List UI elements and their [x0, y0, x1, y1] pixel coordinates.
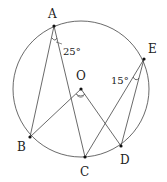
- angle-label-e: 15°: [111, 75, 129, 86]
- point-o: [79, 87, 82, 90]
- point-e: [142, 57, 145, 60]
- label-d: D: [120, 153, 130, 167]
- segment-od: [81, 89, 121, 146]
- diagram-canvas: A E O B C D 25° 15°: [0, 0, 167, 182]
- label-o: O: [76, 69, 86, 83]
- label-e: E: [148, 42, 157, 56]
- point-a: [52, 24, 55, 27]
- angle-leader-a: [56, 42, 62, 44]
- angle-arc-a: [52, 38, 57, 40]
- angle-arc-e: [133, 77, 139, 80]
- label-b: B: [17, 140, 26, 154]
- segment-ob: [30, 89, 81, 137]
- point-c: [83, 155, 86, 158]
- point-d: [119, 144, 122, 147]
- point-b: [28, 135, 31, 138]
- label-c: C: [80, 165, 89, 179]
- angle-label-a: 25°: [63, 46, 81, 57]
- label-a: A: [47, 7, 57, 21]
- segment-ab: [30, 26, 54, 137]
- geometry-diagram: A E O B C D 25° 15°: [0, 0, 167, 182]
